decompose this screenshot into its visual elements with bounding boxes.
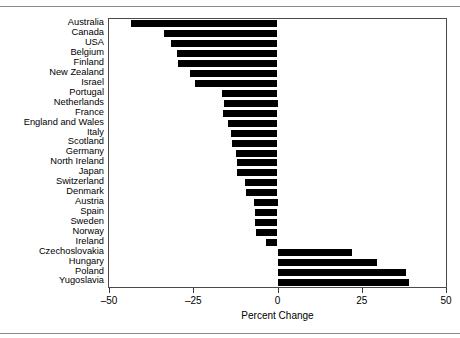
category-label: England and Wales	[0, 118, 104, 127]
bar	[224, 100, 277, 107]
bar	[131, 20, 278, 27]
bar	[232, 140, 277, 147]
plot-area	[109, 19, 446, 287]
category-label: Austria	[0, 197, 104, 206]
bar	[171, 40, 277, 47]
category-label: Spain	[0, 207, 104, 216]
page-rule-top	[0, 6, 460, 7]
x-axis-tick-label: 50	[440, 295, 451, 306]
category-label: Hungary	[0, 257, 104, 266]
x-axis-tick	[446, 288, 447, 293]
x-axis-title: Percent Change	[108, 310, 447, 321]
category-label: Denmark	[0, 187, 104, 196]
category-label: Yugoslavia	[0, 276, 104, 285]
bar	[255, 219, 277, 226]
category-label: New Zealand	[0, 68, 104, 77]
x-axis-tick-label: 25	[356, 295, 367, 306]
category-label: France	[0, 108, 104, 117]
category-label: North Ireland	[0, 157, 104, 166]
category-label: Israel	[0, 78, 104, 87]
figure-container: AustraliaCanadaUSABelgiumFinlandNew Zeal…	[0, 0, 460, 338]
page-rule-bottom	[0, 333, 460, 334]
bar	[231, 130, 277, 137]
bar	[278, 279, 409, 286]
category-label: Australia	[0, 18, 104, 27]
bar	[278, 269, 406, 276]
bar	[228, 120, 277, 127]
category-label: Norway	[0, 227, 104, 236]
category-label: USA	[0, 38, 104, 47]
bar	[246, 189, 278, 196]
bar	[178, 60, 277, 67]
bar	[245, 179, 277, 186]
category-axis-labels: AustraliaCanadaUSABelgiumFinlandNew Zeal…	[0, 18, 104, 288]
bar	[223, 110, 277, 117]
category-label: Japan	[0, 167, 104, 176]
category-label: Italy	[0, 128, 104, 137]
bar	[222, 90, 277, 97]
category-label: Poland	[0, 267, 104, 276]
bar	[195, 80, 277, 87]
category-label: Portugal	[0, 88, 104, 97]
bar	[236, 150, 277, 157]
bar	[256, 229, 278, 236]
category-label: Finland	[0, 58, 104, 67]
bar	[237, 169, 277, 176]
x-axis-tick-label: –50	[101, 295, 118, 306]
x-axis-tick	[193, 288, 194, 293]
x-axis: –50–2502550	[108, 288, 447, 289]
bar	[254, 199, 277, 206]
category-label: Germany	[0, 147, 104, 156]
bar	[164, 30, 277, 37]
bar	[177, 50, 277, 57]
bar	[278, 249, 352, 256]
category-label: Canada	[0, 28, 104, 37]
x-axis-tick-label: 0	[275, 295, 281, 306]
plot-frame	[108, 18, 447, 288]
x-axis-tick	[362, 288, 363, 293]
category-label: Ireland	[0, 237, 104, 246]
x-axis-tick	[109, 288, 110, 293]
category-label: Sweden	[0, 217, 104, 226]
category-label: Switzerland	[0, 177, 104, 186]
bar	[278, 259, 377, 266]
x-axis-tick-label: –25	[185, 295, 202, 306]
category-label: Netherlands	[0, 98, 104, 107]
x-axis-tick	[278, 288, 279, 293]
bar	[266, 239, 277, 246]
bar	[255, 209, 278, 216]
category-label: Scotland	[0, 137, 104, 146]
category-label: Belgium	[0, 48, 104, 57]
category-label: Czechoslovakia	[0, 247, 104, 256]
bar	[237, 159, 277, 166]
bar	[190, 70, 277, 77]
